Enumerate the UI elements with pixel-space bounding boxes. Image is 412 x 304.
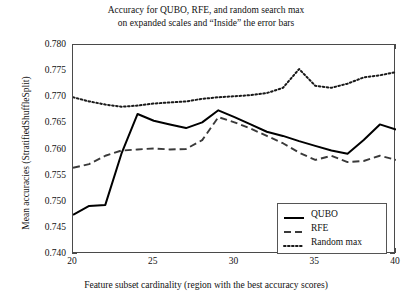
y-tick-label: 0.765 [4,117,66,127]
legend-swatch-icon [283,223,305,233]
series-line-random-max [73,69,396,107]
legend-item-random-max[interactable]: Random max [283,235,381,249]
y-tick-label: 0.780 [4,39,66,49]
legend-label: RFE [311,223,328,233]
legend-swatch-icon [283,209,305,219]
y-tick-label: 0.770 [4,91,66,101]
chart-legend: QUBORFERandom max [277,203,387,254]
y-tick-label: 0.760 [4,144,66,154]
legend-label: QUBO [311,209,338,219]
chart-figure: Accuracy for QUBO, RFE, and random searc… [0,0,412,304]
chart-title: Accuracy for QUBO, RFE, and random searc… [0,4,412,29]
legend-label: Random max [311,237,362,247]
series-line-rfe [73,117,396,168]
x-axis-label: Feature subset cardinality (region with … [0,280,412,290]
x-tick-label: 25 [133,256,173,266]
y-tick-label: 0.775 [4,65,66,75]
x-tick-label: 40 [375,256,412,266]
x-tick-label: 30 [214,256,254,266]
legend-item-rfe[interactable]: RFE [283,221,381,235]
y-tick-label: 0.755 [4,170,66,180]
y-tick-label: 0.750 [4,196,66,206]
y-tick-label: 0.745 [4,222,66,232]
x-tick-label: 35 [294,256,334,266]
legend-item-qubo[interactable]: QUBO [283,207,381,221]
x-tick-label: 20 [52,256,92,266]
legend-swatch-icon [283,237,305,247]
